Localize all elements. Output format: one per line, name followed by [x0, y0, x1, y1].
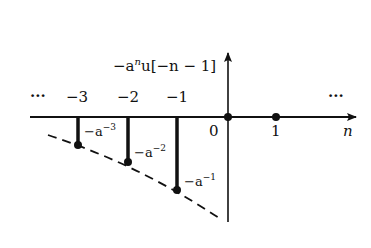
tick-label-minus-1: −1: [166, 88, 188, 106]
tick-label-minus-3: −3: [66, 88, 88, 106]
dot-n-minus-3: [74, 141, 82, 149]
value-label-minus-1: −a−1: [184, 172, 216, 189]
tick-label-minus-2: −2: [117, 88, 139, 106]
ellipsis-left: ···: [30, 87, 46, 105]
dot-n-1: [272, 113, 280, 121]
x-axis-label: n: [343, 122, 353, 140]
value-label-minus-2: −a−2: [134, 143, 166, 160]
dot-n-minus-2: [124, 158, 132, 166]
tick-label-1: 1: [271, 122, 281, 140]
dot-n-minus-1: [173, 186, 181, 194]
y-axis-label: −anu[−n − 1]: [113, 56, 216, 75]
tick-label-0: 0: [209, 122, 219, 140]
dot-n-0: [224, 113, 232, 121]
stem-plot: −anu[−n − 1] ··· ··· −3 −2 −1 0 1 n −a−3…: [0, 0, 371, 248]
ellipsis-right: ···: [328, 87, 344, 105]
value-label-minus-3: −a−3: [84, 122, 116, 139]
